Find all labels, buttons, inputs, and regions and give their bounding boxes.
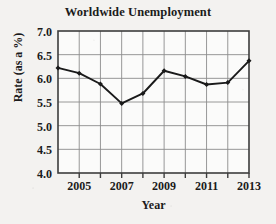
ytick-label-5-0: 5.0 [22,120,52,135]
ytick-label-7-0: 7.0 [22,25,52,40]
xtick-label-2011: 2011 [187,179,227,194]
ytick-label-6-0: 6.0 [22,72,52,87]
xtick-label-2007: 2007 [102,179,142,194]
xtick-label-2009: 2009 [144,179,184,194]
chart-figure: Worldwide Unemployment [0,0,276,224]
x-axis-label: Year [58,198,249,213]
ytick-label-6-5: 6.5 [22,49,52,64]
xtick-label-2005: 2005 [59,179,99,194]
ytick-label-4-5: 4.5 [22,143,52,158]
ytick-label-5-5: 5.5 [22,96,52,111]
ytick-label-4-0: 4.0 [22,167,52,182]
y-axis-label: Rate (as a %) [11,18,26,118]
xtick-label-2013: 2013 [229,179,269,194]
